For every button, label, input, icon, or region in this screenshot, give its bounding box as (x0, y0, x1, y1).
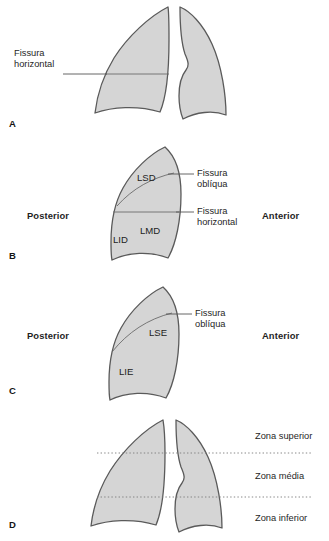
panel-letter-c: C (9, 385, 16, 396)
lobe-label-lsd: LSD (137, 172, 156, 183)
panel-d: Zona superior Zona média Zona inferior D (0, 415, 329, 541)
left-lung-shape (175, 420, 222, 532)
zone-label-inferior: Zona inferior (255, 513, 307, 524)
label-line-2: horizontal (14, 59, 54, 69)
label-fissura-horizontal-a: Fissura horizontal (14, 48, 54, 71)
lobe-label-lie: LIE (119, 366, 133, 377)
left-lung-shape (179, 7, 226, 119)
right-lung-shape (95, 7, 169, 113)
label-fissura-obliqua-c: Fissura oblíqua (195, 308, 226, 331)
label-line-1: Fissura (197, 168, 227, 178)
zone-label-media: Zona média (255, 471, 304, 482)
label-line-2: oblíqua (195, 319, 226, 329)
label-line-2: oblíqua (197, 179, 228, 189)
panel-letter-d: D (9, 519, 16, 530)
lobe-label-lmd: LMD (140, 225, 160, 236)
orientation-anterior-c: Anterior (262, 330, 299, 341)
right-lung-shape (91, 420, 165, 526)
label-fissura-obliqua-b: Fissura oblíqua (197, 168, 228, 191)
orientation-posterior-b: Posterior (27, 210, 69, 221)
label-fissura-horizontal-b: Fissura horizontal (197, 206, 237, 229)
panel-letter-a: A (9, 118, 16, 129)
label-line-1: Fissura (195, 308, 225, 318)
label-line-2: horizontal (197, 217, 237, 227)
lobe-label-lid: LID (113, 234, 128, 245)
zone-label-superior: Zona superior (255, 431, 312, 442)
label-line-1: Fissura (14, 48, 44, 58)
panel-c: LSE LIE Fissura oblíqua Posterior Anteri… (0, 280, 329, 415)
orientation-posterior-c: Posterior (27, 330, 69, 341)
panel-b: LSD LMD LID Fissura oblíqua Fissura hori… (0, 140, 329, 280)
panel-letter-b: B (9, 250, 16, 261)
label-line-1: Fissura (197, 206, 227, 216)
panel-a: Fissura horizontal A (0, 0, 329, 140)
orientation-anterior-b: Anterior (262, 210, 299, 221)
lobe-label-lse: LSE (149, 327, 167, 338)
panel-c-figure (0, 280, 329, 415)
